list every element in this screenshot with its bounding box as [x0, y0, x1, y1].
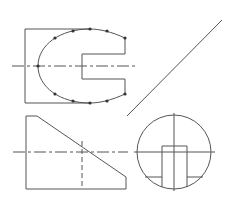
point-marker — [36, 64, 39, 67]
point-marker — [105, 29, 108, 32]
side-view — [134, 113, 215, 191]
point-marker — [105, 99, 108, 102]
front-view — [13, 116, 128, 189]
point-marker — [53, 92, 56, 95]
point-marker — [88, 101, 91, 104]
point-marker — [123, 36, 126, 39]
technical-drawing — [0, 0, 244, 204]
point-marker — [71, 29, 74, 32]
miter-line — [127, 20, 222, 116]
point-marker — [53, 36, 56, 39]
drawing-canvas — [0, 0, 244, 204]
top-view — [12, 27, 137, 104]
point-marker — [123, 92, 126, 95]
point-marker — [88, 27, 91, 30]
point-marker — [71, 99, 74, 102]
